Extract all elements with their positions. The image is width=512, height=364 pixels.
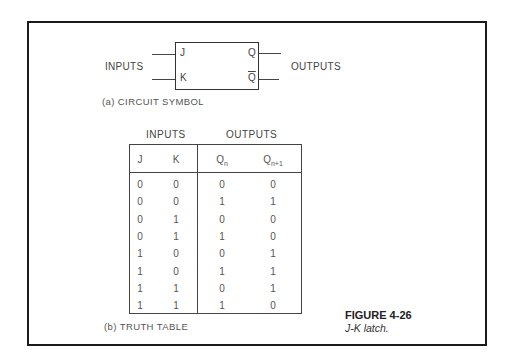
figure-number: FIGURE 4-26	[345, 309, 412, 321]
table-cell: 1	[263, 283, 283, 294]
table-cell: 1	[212, 196, 232, 207]
table-cell: 0	[130, 179, 150, 190]
table-cell: 1	[263, 196, 283, 207]
table-cell: 0	[263, 231, 283, 242]
inputs-outputs-divider	[197, 145, 198, 313]
col-header-qn1: Qn+1	[258, 154, 288, 167]
table-cell: 1	[166, 214, 186, 225]
col-header-j: J	[130, 154, 150, 165]
pin-q: Q	[248, 47, 256, 58]
table-cell: 0	[263, 179, 283, 190]
table-cell: 1	[166, 300, 186, 311]
table-cell: 0	[212, 214, 232, 225]
q-bar-output-wire	[259, 79, 279, 80]
table-cell: 0	[130, 196, 150, 207]
pin-j: J	[180, 47, 185, 58]
table-cell: 0	[212, 248, 232, 259]
table-cell: 1	[212, 231, 232, 242]
table-cell: 1	[130, 266, 150, 277]
table-cell: 1	[166, 283, 186, 294]
table-cell: 0	[166, 266, 186, 277]
table-cell: 0	[263, 300, 283, 311]
col-header-qn: Qn	[212, 154, 232, 167]
truth-table-grid: J K Qn Qn+1 0000001101000110100110111101…	[129, 144, 302, 314]
truth-table-caption: (b) TRUTH TABLE	[104, 321, 188, 332]
table-cell: 1	[130, 283, 150, 294]
table-cell: 1	[263, 266, 283, 277]
table-cell: 1	[130, 248, 150, 259]
j-input-wire	[152, 54, 175, 55]
table-cell: 0	[263, 214, 283, 225]
pin-q-bar: Q	[248, 72, 256, 83]
table-cell: 1	[263, 248, 283, 259]
table-cell: 1	[212, 266, 232, 277]
inputs-label: INPUTS	[105, 61, 143, 72]
q-output-wire	[259, 53, 281, 54]
inputs-group-header: INPUTS	[146, 129, 186, 140]
header-divider	[130, 172, 301, 173]
table-cell: 0	[166, 248, 186, 259]
latch-box	[175, 42, 259, 90]
table-cell: 0	[130, 231, 150, 242]
table-cell: 0	[166, 196, 186, 207]
table-cell: 1	[212, 300, 232, 311]
table-cell: 1	[166, 231, 186, 242]
table-cell: 1	[130, 300, 150, 311]
table-cell: 0	[130, 214, 150, 225]
table-cell: 0	[166, 179, 186, 190]
table-cell: 0	[212, 179, 232, 190]
outputs-label: OUTPUTS	[291, 61, 341, 72]
col-header-k: K	[166, 154, 186, 165]
k-input-wire	[152, 79, 175, 80]
figure-title: J-K latch.	[345, 322, 389, 334]
pin-k: K	[180, 72, 187, 83]
circuit-symbol-caption: (a) CIRCUIT SYMBOL	[102, 96, 204, 107]
table-cell: 0	[212, 283, 232, 294]
outputs-group-header: OUTPUTS	[226, 129, 277, 140]
